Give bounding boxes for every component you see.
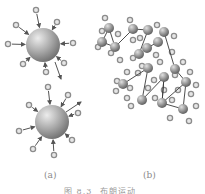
molecule-dot <box>30 146 35 151</box>
suspended-particle <box>159 72 169 82</box>
molecule-dot <box>115 31 120 36</box>
suspended-particle <box>157 98 167 108</box>
suspended-particle <box>159 27 169 37</box>
molecule-dot <box>130 37 135 42</box>
bombarded-particle-group <box>16 84 81 157</box>
molecule-dot <box>169 97 174 102</box>
molecule-dot <box>51 152 56 157</box>
molecule-dot <box>124 69 129 74</box>
figure-number: 图 8.3 <box>64 187 92 194</box>
molecule-dot <box>180 59 185 64</box>
suspended-particle <box>170 64 180 74</box>
suspended-particle <box>134 49 144 59</box>
molecule-dot <box>61 60 66 65</box>
molecule-dot <box>20 61 25 66</box>
molecule-dot <box>16 128 21 133</box>
suspended-particle <box>110 42 120 52</box>
suspended-particle <box>142 43 152 53</box>
molecule-dot <box>113 88 118 93</box>
molecule-dot <box>157 59 162 64</box>
molecule-dot <box>193 82 198 87</box>
suspended-particle <box>104 23 114 33</box>
large-particle-sphere <box>26 28 60 62</box>
molecule-dot <box>171 33 176 38</box>
molecule-dot <box>128 103 133 108</box>
large-particle-sphere <box>35 105 69 139</box>
impact-arrow <box>61 98 66 106</box>
impact-arrow <box>32 107 37 111</box>
molecule-dot <box>65 92 70 97</box>
impact-arrow <box>53 140 54 151</box>
outgoing-arrow <box>55 62 61 79</box>
molecule-dot <box>5 41 10 46</box>
impact-arrow <box>69 114 74 116</box>
impact-arrow <box>37 14 40 27</box>
suspended-particle <box>137 95 147 105</box>
impact-arrow <box>45 63 46 68</box>
impact-arrow <box>52 25 55 29</box>
panel-b-diagram <box>95 15 198 123</box>
suspended-particle <box>143 25 153 35</box>
molecule-dot <box>151 77 156 82</box>
molecule-dot <box>43 69 48 74</box>
impact-arrow <box>19 27 28 34</box>
molecule-dot <box>99 28 104 33</box>
suspended-particle <box>178 104 188 114</box>
impact-arrow <box>61 43 69 44</box>
molecule-dot <box>54 19 59 24</box>
suspended-particle <box>181 77 191 87</box>
molecule-dot <box>124 95 129 100</box>
impact-arrow <box>35 137 41 146</box>
brownian-motion-figure <box>0 0 205 194</box>
figure-title: 布朗运动 <box>100 187 136 194</box>
impact-arrow <box>26 57 30 61</box>
molecule-dot <box>161 87 166 92</box>
molecule-dot <box>154 22 159 27</box>
molecule-dot <box>167 115 172 120</box>
molecule-dot <box>186 118 191 123</box>
molecule-dot <box>13 22 18 27</box>
suspended-particle <box>143 63 153 73</box>
molecule-dot <box>145 85 150 90</box>
molecule-dot <box>102 15 107 20</box>
molecule-dot <box>193 103 198 108</box>
impact-arrow <box>48 91 50 104</box>
suspended-particle <box>128 24 138 34</box>
bombarded-particle-group <box>5 7 75 79</box>
molecule-dot <box>75 110 80 115</box>
molecule-dot <box>45 84 50 89</box>
panel-a-diagram <box>5 7 81 157</box>
panel-b-label: (b) <box>143 171 156 180</box>
molecule-dot <box>187 69 192 74</box>
figure-caption: 图 8.3布朗运动 <box>64 185 144 194</box>
molecule-dot <box>137 35 142 40</box>
molecule-dot <box>70 40 75 45</box>
molecule-dot <box>152 95 157 100</box>
suspended-particle <box>153 37 163 47</box>
panel-a-label: (a) <box>44 171 56 180</box>
molecule-dot <box>127 85 132 90</box>
suspended-particle <box>118 79 128 89</box>
impact-arrow <box>65 134 69 137</box>
molecule-dot <box>33 7 38 12</box>
molecule-dot <box>188 91 193 96</box>
molecule-dot <box>26 102 31 107</box>
molecule-dot <box>117 57 122 62</box>
molecule-dot <box>153 52 158 57</box>
molecule-dot <box>127 17 132 22</box>
molecule-dot <box>69 137 74 142</box>
impact-arrow <box>57 57 61 61</box>
suspended-particle <box>97 37 107 47</box>
impact-arrow <box>23 127 35 130</box>
